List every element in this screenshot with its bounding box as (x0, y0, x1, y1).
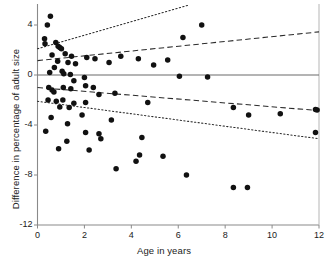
y-axis-title-wrapper: Difference in percentage of adult size (5, 29, 23, 229)
data-point (184, 172, 190, 178)
data-point (71, 100, 77, 106)
data-point (180, 35, 186, 41)
data-point (83, 130, 89, 136)
data-point (278, 111, 284, 117)
data-point (57, 104, 63, 110)
data-points-group (42, 14, 320, 191)
data-point (45, 97, 51, 103)
data-point (133, 159, 139, 165)
data-point (246, 112, 252, 118)
data-point (109, 117, 115, 123)
data-point (139, 135, 145, 141)
scatter-plot-figure: Age in years Difference in percentage of… (0, 0, 328, 262)
data-point (83, 100, 89, 106)
data-point (79, 112, 85, 118)
data-point (245, 185, 251, 191)
data-point (98, 136, 104, 142)
y-tick-label: -12 (9, 219, 33, 229)
data-point (112, 90, 118, 96)
data-point (82, 75, 88, 81)
data-point (45, 22, 51, 28)
data-point (231, 185, 237, 191)
data-point (61, 71, 67, 77)
data-point (96, 131, 102, 137)
data-point (313, 130, 319, 136)
data-point (160, 154, 166, 160)
data-point (51, 89, 57, 95)
x-tick-label: 2 (72, 230, 96, 240)
data-point (83, 83, 89, 89)
data-point (69, 54, 75, 60)
data-point (65, 121, 71, 127)
data-point (165, 57, 171, 63)
data-point (42, 41, 48, 47)
data-point (52, 65, 58, 71)
data-point (91, 85, 97, 91)
data-point (62, 51, 68, 57)
data-point (118, 54, 124, 60)
data-point (106, 60, 112, 66)
trend-lines-group (38, 5, 320, 139)
data-point (65, 60, 71, 66)
data-point (199, 22, 205, 28)
data-point (73, 61, 79, 67)
data-point (231, 105, 237, 111)
data-point (313, 107, 319, 113)
data-point (113, 166, 119, 172)
y-tick-label: -8 (9, 169, 33, 179)
x-tick-label: 10 (260, 230, 284, 240)
y-tick-label: 0 (9, 69, 33, 79)
data-point (86, 147, 92, 153)
data-point (54, 99, 60, 105)
data-point (55, 59, 61, 65)
data-point (68, 72, 74, 78)
data-point (96, 92, 102, 98)
x-tick-label: 8 (213, 230, 237, 240)
x-tick-label: 12 (307, 230, 328, 240)
data-point (47, 70, 53, 76)
x-tick-label: 6 (166, 230, 190, 240)
data-point (64, 139, 70, 145)
data-point (68, 86, 74, 92)
data-point (151, 62, 157, 68)
data-point (145, 100, 151, 106)
data-point (84, 55, 90, 61)
y-tick-label: -4 (9, 119, 33, 129)
data-point (49, 52, 55, 58)
upper-dotted-confidence-line (38, 5, 190, 49)
data-point (59, 46, 65, 52)
data-point (136, 56, 142, 62)
tick-marks-group (34, 25, 319, 229)
plot-canvas (0, 0, 328, 262)
data-point (177, 74, 183, 80)
data-point (205, 74, 211, 80)
data-point (137, 152, 143, 158)
data-point (92, 56, 98, 62)
x-tick-label: 4 (119, 230, 143, 240)
data-point (48, 115, 54, 121)
data-point (48, 14, 54, 20)
data-point (42, 36, 48, 42)
data-point (60, 97, 65, 103)
data-point (71, 78, 77, 84)
x-axis-title: Age in years (0, 245, 328, 256)
x-tick-label: 0 (26, 230, 50, 240)
data-point (43, 129, 49, 135)
data-point (61, 85, 67, 91)
data-point (66, 105, 72, 111)
lower-dashed-regression-line (38, 88, 320, 111)
y-tick-label: 4 (9, 19, 33, 29)
data-point (56, 146, 62, 152)
